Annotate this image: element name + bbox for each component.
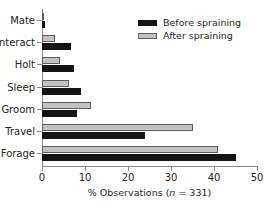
category-row: Holt: [42, 54, 257, 76]
chart-legend: Before spraining After spraining: [138, 16, 241, 42]
y-axis-tick-label: Holt: [15, 56, 35, 73]
y-axis-tick-label: Groom: [1, 101, 35, 118]
bar-before-spraining: [42, 43, 71, 50]
x-axis-tick-label: 10: [79, 172, 92, 184]
bar-after-spraining: [42, 13, 44, 20]
x-axis-tick: [85, 166, 86, 171]
category-row: Forage: [42, 143, 257, 165]
x-axis-tick-label: 20: [122, 172, 135, 184]
bar-before-spraining: [42, 110, 77, 117]
bar-after-spraining: [42, 102, 91, 109]
x-axis-tick: [171, 166, 172, 171]
bar-after-spraining: [42, 35, 55, 42]
category-row: Groom: [42, 99, 257, 121]
x-axis-tick: [42, 166, 43, 171]
y-axis-tick-label: Travel: [5, 123, 35, 140]
category-row: Travel: [42, 121, 257, 143]
legend-label-before: Before spraining: [163, 16, 241, 29]
bar-after-spraining: [42, 57, 60, 64]
x-axis-tick-label: 30: [165, 172, 178, 184]
bar-after-spraining: [42, 80, 69, 87]
legend-label-after: After spraining: [163, 29, 233, 42]
x-axis-line: [42, 166, 257, 167]
x-axis-tick-label: 50: [251, 172, 264, 184]
y-axis-tick-label: Interact: [0, 34, 35, 51]
x-axis-title-suffix: = 331): [175, 187, 211, 198]
bar-after-spraining: [42, 124, 193, 131]
bar-before-spraining: [42, 21, 45, 28]
bar-chart: MateInteractHoltSleepGroomTravelForage 0…: [0, 0, 269, 206]
bar-before-spraining: [42, 154, 236, 161]
x-axis-tick: [128, 166, 129, 171]
y-axis-tick-label: Sleep: [7, 79, 35, 96]
legend-swatch-before-icon: [138, 20, 157, 26]
bar-before-spraining: [42, 88, 81, 95]
legend-item-before: Before spraining: [138, 16, 241, 29]
bar-before-spraining: [42, 65, 74, 72]
x-axis-tick: [257, 166, 258, 171]
y-axis-tick-label: Forage: [1, 145, 35, 162]
bar-before-spraining: [42, 132, 145, 139]
x-axis-tick: [214, 166, 215, 171]
category-row: Sleep: [42, 77, 257, 99]
x-axis-tick-label: 0: [39, 172, 45, 184]
x-axis-title: % Observations (n = 331): [42, 187, 257, 199]
y-axis-tick-label: Mate: [10, 12, 35, 29]
legend-item-after: After spraining: [138, 29, 241, 42]
bar-after-spraining: [42, 146, 218, 153]
x-axis-title-prefix: % Observations (: [88, 187, 170, 198]
legend-swatch-after-icon: [138, 33, 157, 39]
x-axis-tick-label: 40: [208, 172, 221, 184]
